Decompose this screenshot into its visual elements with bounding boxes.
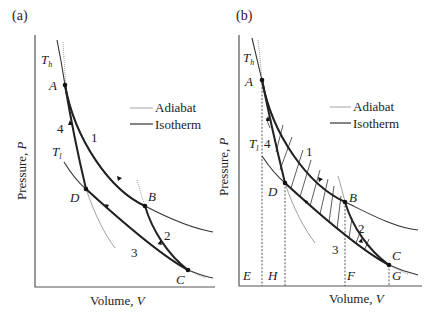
panel-a-tl-label: Tl <box>52 144 62 161</box>
panel-b-point-d <box>283 181 288 186</box>
panel-a-isotherm-cold <box>64 162 213 278</box>
panel-a-label-a: A <box>48 78 57 93</box>
panel-a-adiabat-left <box>86 189 115 248</box>
panel-b-process-label-1: 1 <box>306 144 313 159</box>
panel-a-process-label-4: 4 <box>57 121 64 136</box>
panel-b-process-label-2: 2 <box>358 221 365 236</box>
panel-a-point-a <box>63 83 68 88</box>
panel-b-point-a <box>260 78 265 83</box>
panel-b-label-g: G <box>392 268 402 283</box>
panel-b: (b) <box>216 8 422 306</box>
panel-b-point-b <box>343 200 348 205</box>
panel-b-label-a: A <box>244 74 253 89</box>
panel-b-label-h: H <box>267 268 278 283</box>
panel-a-point-d <box>84 187 89 192</box>
panel-a-x-axis-label: Volume, V <box>90 293 147 308</box>
panel-b-isotherm-hot <box>252 38 418 230</box>
panel-a-label-b: B <box>148 189 156 204</box>
panel-b-label-d: D <box>267 184 278 199</box>
panel-a-tag: (a) <box>12 8 28 24</box>
diagram-canvas: (a) A B C D 1 2 3 4 Th <box>0 0 431 317</box>
panel-b-label-e: E <box>242 268 251 283</box>
legend-adiabat-label: Adiabat <box>353 99 395 114</box>
carnot-cycle-figure: (a) A B C D 1 2 3 4 Th <box>0 0 431 317</box>
panel-b-point-c <box>387 263 392 268</box>
legend-isotherm-label: Isotherm <box>155 117 201 132</box>
panel-a-y-axis-label: Pressure, P <box>14 141 29 200</box>
panel-b-x-axis-label: Volume, V <box>329 291 386 306</box>
panel-a-isotherm-hot <box>57 40 213 232</box>
panel-a-process-label-2: 2 <box>164 228 171 243</box>
panel-a-process-label-3: 3 <box>131 245 138 260</box>
panel-b-adiabat-left <box>285 183 315 243</box>
panel-b-tl-label: Tl <box>249 136 259 153</box>
panel-b-tag: (b) <box>236 8 253 24</box>
panel-a-axes <box>35 35 215 287</box>
panel-b-label-f: F <box>346 268 356 283</box>
panel-b-process-2 <box>345 202 389 265</box>
legend-adiabat-label: Adiabat <box>155 100 197 115</box>
panel-b-process-label-3: 3 <box>332 242 339 257</box>
panel-b-arrow-1 <box>318 177 323 182</box>
panel-a-label-c: C <box>176 272 185 287</box>
panel-b-label-c: C <box>392 248 401 263</box>
panel-a-point-b <box>143 204 148 209</box>
panel-b-label-b: B <box>349 190 357 205</box>
panel-a-label-d: D <box>69 190 80 205</box>
panel-a-process-label-1: 1 <box>91 130 98 145</box>
panel-a-legend: Adiabat Isotherm <box>130 100 201 132</box>
panel-a-point-c <box>186 268 191 273</box>
panel-b-th-label: Th <box>243 50 254 67</box>
panel-b-y-axis-label: Pressure, P <box>216 137 231 196</box>
panel-a-th-label: Th <box>41 52 52 69</box>
panel-b-process-label-4: 4 <box>264 136 271 151</box>
panel-a-arrow-1 <box>117 176 122 181</box>
legend-isotherm-label: Isotherm <box>353 116 399 131</box>
panel-a: (a) A B C D 1 2 3 4 Th <box>12 8 215 308</box>
panel-b-legend: Adiabat Isotherm <box>330 99 399 131</box>
